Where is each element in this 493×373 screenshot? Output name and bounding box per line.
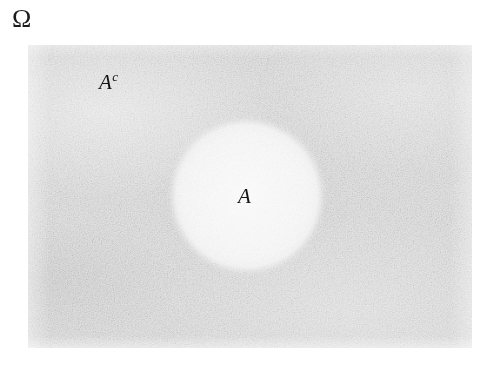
complement-superscript-c: c [112, 69, 118, 84]
complement-base-letter: A [99, 70, 112, 94]
set-region-label: A [238, 186, 251, 207]
venn-diagram-figure: Ω Ac A [0, 0, 493, 373]
sample-space-label: Ω [12, 6, 31, 32]
complement-region-label: Ac [99, 70, 118, 93]
